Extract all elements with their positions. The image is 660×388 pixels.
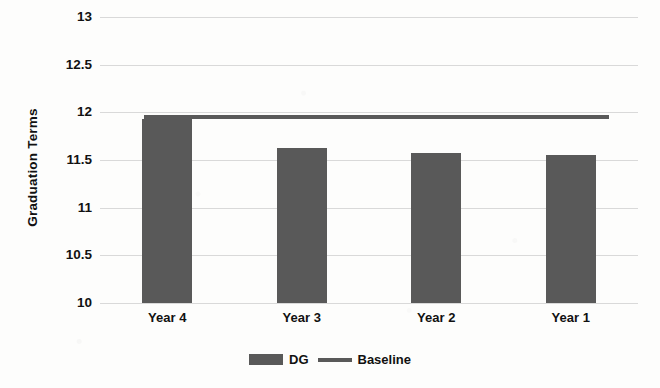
- chart-legend: DG Baseline: [0, 352, 660, 367]
- x-axis-tick-labels: Year 4Year 3Year 2Year 1: [100, 310, 638, 332]
- y-axis-tick-label: 12.5: [40, 58, 92, 72]
- bar-year-1[interactable]: [546, 155, 596, 303]
- x-axis-tick-label: Year 3: [283, 310, 321, 325]
- x-axis-tick-label: Year 2: [417, 310, 455, 325]
- x-axis-tick-label: Year 4: [148, 310, 186, 325]
- bar-chart-figure: Graduation Terms 1312.51211.51110.510 Ye…: [0, 0, 660, 388]
- legend-label-baseline: Baseline: [358, 352, 411, 367]
- legend-line-swatch-icon: [318, 358, 352, 362]
- y-axis-tick-label: 11.5: [40, 153, 92, 167]
- gridline: [100, 112, 638, 113]
- y-axis-tick-label: 11: [40, 201, 92, 215]
- legend-entry-dg[interactable]: DG: [249, 352, 309, 367]
- gridline: [100, 65, 638, 66]
- gridline: [100, 303, 638, 304]
- y-axis-tick-label: 10.5: [40, 249, 92, 263]
- y-axis-tick-label: 13: [40, 10, 92, 24]
- baseline-series-line[interactable]: [144, 115, 609, 119]
- bar-year-4[interactable]: [142, 119, 192, 303]
- x-axis-tick-label: Year 1: [552, 310, 590, 325]
- y-axis-tick-label: 12: [40, 106, 92, 120]
- bar-year-2[interactable]: [411, 153, 461, 303]
- legend-entry-baseline[interactable]: Baseline: [318, 352, 411, 367]
- y-axis-tick-label: 10: [40, 296, 92, 310]
- legend-bar-swatch-icon: [249, 354, 283, 365]
- plot-area: [100, 17, 638, 303]
- bar-year-3[interactable]: [277, 148, 327, 303]
- y-axis-tick-labels: 1312.51211.51110.510: [36, 0, 92, 388]
- legend-label-dg: DG: [289, 352, 309, 367]
- gridline: [100, 17, 638, 18]
